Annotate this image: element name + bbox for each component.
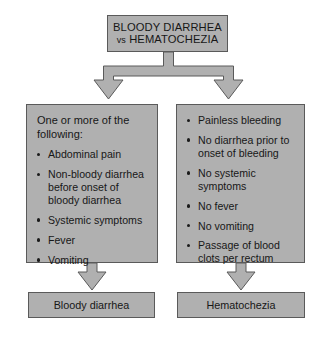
title-vs-label: vs (117, 35, 126, 45)
title-line-1: BLOODY DIARRHEA (113, 21, 222, 33)
result-box-bloody-diarrhea: Bloody diarrhea (28, 292, 155, 318)
list-item: Systemic symptoms (36, 214, 151, 227)
list-item: No systemic symptoms (186, 167, 298, 193)
list-item: No fever (186, 200, 298, 213)
result-label: Hematochezia (206, 299, 275, 311)
result-box-hematochezia: Hematochezia (177, 292, 305, 318)
left-down-arrow (78, 263, 106, 290)
list-item: No diarrhea prior to onset of bleeding (186, 134, 298, 160)
result-label: Bloody diarrhea (54, 299, 130, 311)
list-item: Fever (36, 234, 151, 247)
flowchart-diagram: BLOODY DIARRHEA vs HEMATOCHEZIA One or m… (0, 0, 332, 342)
left-intro-text: One or more of the following: (37, 114, 151, 141)
split-arrow-connector (94, 52, 243, 99)
hematochezia-criteria-box: Painless bleeding No diarrhea prior to o… (176, 104, 305, 263)
right-down-arrow (227, 263, 255, 290)
left-bullet-list: Abdominal pain Non-bloody diarrhea befor… (36, 148, 151, 266)
list-item: Vomiting (36, 254, 151, 267)
list-item: Abdominal pain (36, 148, 151, 161)
list-item: Painless bleeding (186, 114, 298, 127)
bloody-diarrhea-criteria-box: One or more of the following: Abdominal … (26, 104, 158, 263)
right-bullet-list: Painless bleeding No diarrhea prior to o… (186, 114, 298, 265)
title-line-2-text: HEMATOCHEZIA (129, 33, 218, 45)
list-item: Non-bloody diarrhea before onset of bloo… (36, 168, 151, 207)
title-box: BLOODY DIARRHEA vs HEMATOCHEZIA (107, 15, 228, 52)
list-item: No vomiting (186, 220, 298, 233)
title-line-2: vs HEMATOCHEZIA (117, 33, 218, 46)
list-item: Passage of blood clots per rectum (186, 239, 298, 265)
